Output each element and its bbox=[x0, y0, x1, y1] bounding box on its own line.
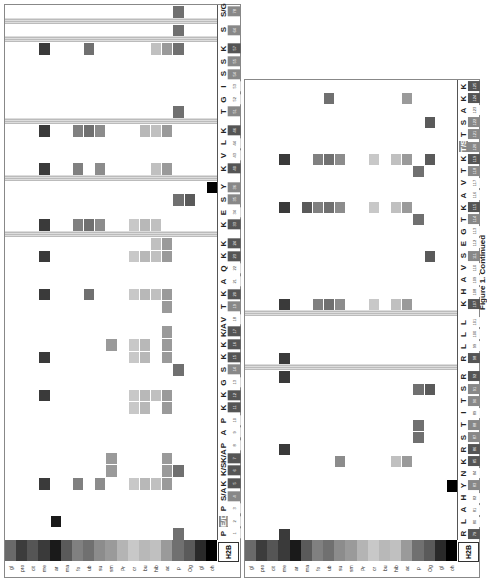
residue-number: 40 bbox=[228, 163, 241, 173]
legend-swatch-hib bbox=[150, 540, 161, 561]
residue-40: K40 bbox=[218, 162, 239, 175]
residue-10: P10 bbox=[218, 414, 239, 427]
residue-aa: K bbox=[219, 163, 228, 174]
modification-cell-su-33 bbox=[95, 219, 105, 231]
modification-cell-ac-46 bbox=[162, 125, 172, 137]
legend-swatch-sm bbox=[105, 540, 116, 561]
legend-swatch-su bbox=[334, 540, 345, 561]
legend-label-fo: fo bbox=[312, 561, 323, 576]
modification-cell-bu-12 bbox=[140, 390, 150, 402]
residue-90: T90 bbox=[458, 395, 479, 407]
residue-9: A9 bbox=[218, 426, 239, 439]
modification-cell-p-35 bbox=[173, 194, 183, 206]
figure-caption: Figure 1. Continued bbox=[478, 210, 487, 310]
legend-label-hib: hib bbox=[390, 561, 401, 576]
modification-cell-ac-6 bbox=[162, 465, 172, 477]
modification-cell-hib-57 bbox=[151, 43, 161, 55]
modification-cell-bu-16 bbox=[140, 339, 150, 351]
legend-swatch-me bbox=[38, 540, 49, 561]
modification-cell-ac-124 bbox=[402, 93, 412, 104]
residue-aa: I bbox=[459, 407, 468, 418]
residue-110: V110 bbox=[458, 262, 479, 274]
right-panel: R79L80A81H82Y83N84K85R86S87T88I89T90S91R… bbox=[244, 79, 480, 578]
residue-number: 18 bbox=[228, 314, 241, 324]
residue-aa: R bbox=[459, 528, 468, 539]
residue-aa: K bbox=[219, 478, 228, 489]
modification-cell-ac-107 bbox=[402, 299, 412, 310]
legend-label-pro: pro bbox=[256, 561, 267, 576]
legend-swatch-pro bbox=[16, 540, 27, 561]
residue-aa: S bbox=[219, 68, 228, 79]
modification-cell-bu-5 bbox=[140, 478, 150, 490]
modification-cell-oh-83 bbox=[447, 480, 457, 491]
modification-cell-ac-11 bbox=[162, 402, 172, 414]
modification-cell-fo-40 bbox=[73, 163, 83, 175]
residue-53: I53 bbox=[218, 80, 239, 93]
residue-57: K57 bbox=[218, 42, 239, 55]
residue-aa: K/A bbox=[219, 326, 228, 337]
residue-14: S14 bbox=[218, 363, 239, 376]
modification-cell-fo-107 bbox=[313, 299, 323, 310]
residue-aa: S bbox=[219, 364, 228, 375]
residue-aa: N bbox=[459, 468, 468, 479]
residue-aa: P bbox=[219, 440, 228, 451]
residue-aa: H bbox=[459, 286, 468, 297]
modification-cell-ub-57 bbox=[84, 43, 94, 55]
residue-number: 88 bbox=[468, 420, 480, 430]
residue-aa: K/S bbox=[219, 465, 228, 476]
modification-cell-ub-33 bbox=[84, 219, 94, 231]
residue-83: Y83 bbox=[458, 479, 479, 491]
residue-aa: R bbox=[459, 444, 468, 455]
modification-cell-me-12 bbox=[39, 390, 49, 402]
modification-cell-Og-91 bbox=[425, 384, 435, 395]
residue-107: K107 bbox=[458, 298, 479, 310]
modification-cell-oh-36 bbox=[207, 182, 217, 194]
residue-number: 100 bbox=[468, 329, 480, 339]
modification-cell-p-114 bbox=[413, 214, 423, 225]
modification-cell-ac-16 bbox=[162, 339, 172, 351]
legend-label-fo: fo bbox=[72, 561, 83, 576]
modification-cell-su-85 bbox=[335, 456, 345, 467]
modification-cell-me-33 bbox=[39, 219, 49, 231]
residue-number: 120 bbox=[468, 142, 480, 152]
residue-11: K11 bbox=[218, 401, 239, 414]
modification-cell-fo-119 bbox=[313, 154, 323, 165]
legend-label-ac: ac bbox=[401, 561, 412, 576]
modification-cell-ac-23 bbox=[162, 251, 172, 263]
residue-number: 17 bbox=[228, 327, 241, 337]
modification-cell-su-40 bbox=[95, 163, 105, 175]
legend-swatch-bu bbox=[379, 540, 390, 561]
legend-label-cr: cr bbox=[128, 561, 139, 576]
residue-number: 86 bbox=[468, 444, 480, 454]
protein-label: H2B bbox=[218, 542, 239, 562]
left-residue-column: P1E/D2P3S/A4K5K/S6K/A7P8A9P10K11K12G13S1… bbox=[217, 5, 240, 540]
residue-number: 12 bbox=[228, 390, 241, 400]
left-modification-legend bbox=[5, 540, 217, 561]
modification-cell-p-88 bbox=[413, 420, 423, 431]
modification-cell-hib-107 bbox=[391, 299, 401, 310]
modification-cell-p-1 bbox=[173, 528, 183, 540]
modification-cell-fo-5 bbox=[73, 478, 83, 490]
legend-label-oh: oh bbox=[206, 561, 217, 576]
modification-cell-cr-115 bbox=[369, 202, 379, 213]
modification-cell-p-51 bbox=[173, 106, 183, 118]
residue-23: K23 bbox=[218, 250, 239, 263]
residue-78: S/G78 bbox=[218, 5, 239, 18]
legend-label-sm: sm bbox=[345, 561, 356, 576]
residue-17: K/A17 bbox=[218, 325, 239, 338]
residue-aa: A bbox=[459, 274, 468, 285]
modification-cell-su-107 bbox=[335, 299, 345, 310]
modification-cell-cr-23 bbox=[129, 251, 139, 263]
modification-cell-bu-23 bbox=[140, 251, 150, 263]
legend-label-su: su bbox=[334, 561, 345, 576]
modification-cell-ac-19 bbox=[162, 301, 172, 313]
residue-aa: E bbox=[459, 238, 468, 249]
residue-aa: K bbox=[459, 298, 468, 309]
modification-cell-me-40 bbox=[39, 163, 49, 175]
modification-cell-me-57 bbox=[39, 43, 49, 55]
modification-cell-ac-119 bbox=[402, 154, 412, 165]
legend-swatch-su bbox=[94, 540, 105, 561]
legend-label-gl: gl bbox=[245, 561, 256, 576]
residue-aa: Y bbox=[459, 480, 468, 491]
modification-cell-fo-33 bbox=[73, 219, 83, 231]
